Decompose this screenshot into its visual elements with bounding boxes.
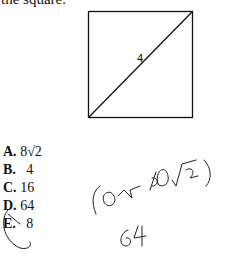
handwritten-work <box>0 0 228 271</box>
circle-mark-d <box>4 210 31 249</box>
